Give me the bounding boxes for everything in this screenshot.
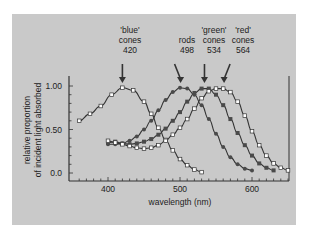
- annotation-text: 534: [207, 45, 221, 55]
- data-point: [142, 140, 146, 144]
- arrowhead-icon: [221, 77, 228, 83]
- data-point: [121, 86, 125, 90]
- data-point: [149, 112, 153, 116]
- arrow-icon: [224, 64, 230, 79]
- absorption-spectrum-chart: 400500600 'blue'cones420rods498'green'co…: [0, 0, 310, 239]
- data-point: [200, 96, 204, 100]
- arrowhead-icon: [201, 77, 208, 83]
- data-point: [272, 162, 276, 166]
- axes: 400500600: [69, 76, 289, 194]
- data-point: [171, 90, 175, 94]
- data-point: [135, 146, 139, 150]
- annotation-text: 564: [236, 45, 250, 55]
- data-point: [243, 143, 247, 147]
- data-point: [149, 137, 153, 141]
- annotation-text: 'green': [202, 25, 227, 35]
- data-point: [286, 169, 290, 173]
- data-point: [200, 103, 204, 107]
- data-point: [185, 87, 189, 91]
- data-point: [185, 117, 189, 121]
- y-tick-label: 0.50: [45, 125, 62, 135]
- data-point: [193, 107, 197, 111]
- arrowhead-icon: [119, 77, 126, 83]
- data-point: [171, 149, 175, 153]
- data-point: [142, 147, 146, 151]
- data-point: [135, 134, 139, 138]
- y-tick-label: 1.00: [45, 81, 62, 91]
- data-point: [236, 162, 240, 166]
- data-point: [135, 141, 139, 145]
- data-point: [257, 143, 261, 147]
- data-point: [193, 168, 197, 172]
- data-point: [131, 89, 135, 93]
- arrowhead-icon: [177, 77, 184, 83]
- data-point: [178, 126, 182, 130]
- data-point: [171, 119, 175, 123]
- data-point: [106, 139, 110, 143]
- data-point: [207, 117, 211, 121]
- annotation-text: cones: [119, 35, 142, 45]
- data-point: [149, 119, 153, 123]
- data-point: [178, 157, 182, 161]
- data-point: [164, 98, 168, 102]
- data-point: [192, 91, 196, 95]
- annotation-text: cones: [203, 35, 226, 45]
- data-point: [178, 86, 182, 90]
- x-tick-label: 600: [245, 184, 259, 194]
- data-point: [214, 132, 218, 136]
- series-group: [77, 86, 289, 174]
- data-point: [250, 129, 254, 133]
- data-point: [207, 89, 211, 93]
- data-point: [214, 87, 218, 91]
- x-tick-label: 400: [101, 184, 115, 194]
- data-point: [121, 142, 125, 146]
- data-point: [243, 167, 247, 171]
- data-point: [221, 103, 225, 107]
- data-point: [171, 133, 175, 137]
- data-point: [185, 163, 189, 167]
- data-point: [88, 112, 92, 116]
- arrow-icon: [175, 64, 181, 79]
- data-point: [164, 139, 168, 143]
- annotation-text: 'red': [235, 25, 251, 35]
- data-point: [156, 133, 160, 137]
- data-point: [200, 170, 204, 174]
- annotation-2: 'green'cones534: [201, 25, 227, 83]
- annotation-text: 420: [123, 45, 137, 55]
- data-point: [250, 168, 254, 172]
- annotation-text: 498: [180, 45, 194, 55]
- data-point: [214, 93, 218, 97]
- annotation-text: 'blue': [120, 25, 140, 35]
- x-axis-label: wavelength (nm): [148, 197, 212, 207]
- data-point: [128, 139, 132, 143]
- data-point: [236, 100, 240, 104]
- data-point: [178, 110, 182, 114]
- data-point: [142, 100, 146, 104]
- data-point: [228, 117, 232, 121]
- data-point: [236, 131, 240, 135]
- data-point: [200, 87, 204, 91]
- data-point: [99, 104, 103, 108]
- data-point: [110, 93, 114, 97]
- data-point: [272, 168, 276, 172]
- data-point: [279, 166, 283, 170]
- data-point: [229, 90, 233, 94]
- data-point: [113, 141, 117, 145]
- series-blue-cones: [77, 86, 203, 174]
- data-point: [156, 108, 160, 112]
- annotation-text: cones: [232, 35, 255, 45]
- y-tick-label: 0.0: [50, 168, 62, 178]
- data-point: [128, 144, 132, 148]
- y-axis-label-line2: of incident light absorbed: [33, 82, 43, 177]
- peak-annotations: 'blue'cones420rods498'green'cones534'red…: [119, 25, 255, 83]
- data-point: [243, 114, 247, 118]
- data-point: [228, 155, 232, 159]
- data-point: [265, 154, 269, 158]
- x-tick-label: 500: [173, 184, 187, 194]
- data-point: [185, 100, 189, 104]
- data-point: [221, 87, 225, 91]
- data-point: [250, 154, 254, 158]
- data-point: [142, 128, 146, 132]
- data-point: [157, 126, 161, 130]
- data-point: [164, 127, 168, 131]
